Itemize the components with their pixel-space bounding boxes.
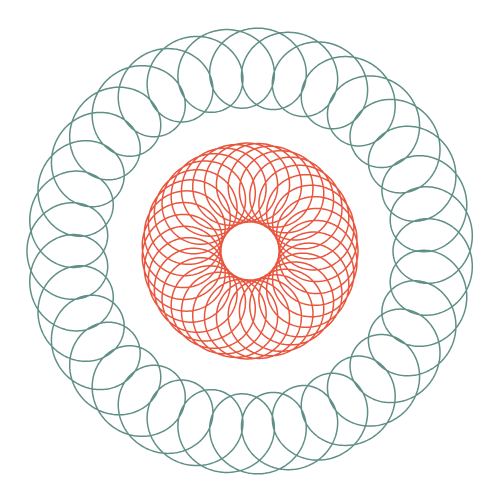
spirograph-figure [0, 0, 500, 502]
artwork-canvas [0, 0, 500, 502]
